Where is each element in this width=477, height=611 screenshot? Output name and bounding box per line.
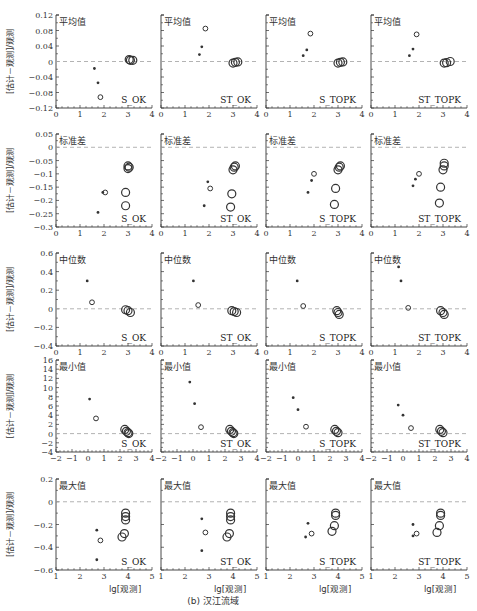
y-axis-label: [估计－观测]/观测 [5,148,15,213]
panel-title: 中位数 [59,254,86,265]
y-axis-label: [估计－观测]/观测 [5,29,15,94]
x-tick-label: 4 [359,454,364,463]
y-tick-label: 0.05 [35,130,53,139]
x-tick-label: 4 [440,572,445,581]
x-tick-label: 3 [335,229,340,238]
x-tick-label: 1 [53,572,58,581]
x-tick-label: 2 [311,348,316,357]
method-label: ST_OK [220,333,251,344]
x-tick-label: 1 [101,454,106,463]
x-tick-label: 1 [416,454,421,463]
x-tick-label: 4 [464,454,469,463]
y-tick-label: 0 [48,498,53,507]
panel-title: 中位数 [164,254,191,265]
x-tick-label: 4 [149,348,154,357]
panel-title: 平均值 [269,16,296,27]
method-label: ST_TOPK [418,557,461,568]
data-point [200,517,203,520]
y-tick-label: 0 [48,143,53,152]
x-axis-label: lg[观测] [109,584,141,594]
x-tick-label: 3 [206,572,211,581]
x-tick-label: 5 [149,572,154,581]
panel-title: 平均值 [374,16,401,27]
x-tick-label: 1 [158,572,163,581]
data-point [307,522,310,525]
data-point [304,424,309,429]
x-tick-label: 1 [182,229,187,238]
data-point [196,303,201,308]
x-tick-label: 1 [206,454,211,463]
data-point [227,203,235,211]
data-point [406,305,411,310]
data-point [200,549,203,552]
y-tick-label: 0.08 [35,27,53,36]
panel-title: 标准差 [164,135,191,146]
figure-canvas: [估计－观测]/观测−0.12−0.08−0.0400.040.080.1201… [0,0,477,611]
data-point [206,180,209,183]
data-point [296,280,299,283]
x-axis-label: lg[观测] [214,584,246,594]
x-tick-label: −1 [381,454,393,463]
y-axis-label: [估计－观测]/观测 [5,492,15,557]
y-tick-label: −0.12 [28,104,53,113]
x-tick-label: 2 [101,229,106,238]
x-tick-label: 4 [359,229,364,238]
method-label: S_TOPK [319,333,356,344]
x-tick-label: 2 [77,572,82,581]
method-label: ST_TOPK [418,95,461,106]
x-tick-label: 3 [440,229,445,238]
y-axis-label: [估计－观测]/观测 [5,374,15,439]
x-tick-label: 2 [206,229,211,238]
data-point [412,534,415,537]
data-point [93,67,96,70]
panel-title: 最大值 [59,480,86,491]
x-tick-label: −1 [276,454,288,463]
x-tick-label: 3 [230,348,235,357]
y-tick-label: −0.05 [28,157,53,166]
data-point [193,402,196,405]
data-point [199,425,204,430]
x-tick-label: 0 [190,454,195,463]
data-point [312,171,317,176]
method-label: S_TOPK [319,214,356,225]
x-tick-label: 2 [311,110,316,119]
x-tick-label: 3 [238,454,243,463]
x-tick-label: 5 [254,572,259,581]
panel-title: 标准差 [59,135,86,146]
data-point [408,54,411,57]
y-tick-label: 14 [43,365,53,374]
x-tick-label: 3 [440,110,445,119]
data-point [400,280,403,283]
data-point [412,184,415,187]
x-tick-label: 1 [368,572,373,581]
x-tick-label: 4 [359,110,364,119]
x-tick-label: 3 [125,348,130,357]
data-point [302,54,305,57]
x-tick-label: 2 [287,572,292,581]
x-tick-label: 2 [222,454,227,463]
y-tick-label: −0.15 [28,183,53,192]
method-label: ST_OK [220,439,251,450]
data-point [192,280,195,283]
data-point [203,204,206,207]
x-tick-label: 0 [368,110,373,119]
y-tick-label: −0.4 [34,543,53,552]
x-tick-label: 2 [101,348,106,357]
x-tick-label: 4 [149,229,154,238]
x-tick-label: 3 [416,572,421,581]
panel-title: 最大值 [164,480,191,491]
method-label: S_OK [121,95,146,106]
data-point [309,531,314,536]
x-tick-label: 0 [263,348,268,357]
x-tick-label: 0 [158,229,163,238]
y-tick-label: 12 [43,374,53,383]
method-label: S_OK [121,439,146,450]
data-point [203,26,208,31]
panel-title: 中位数 [269,254,296,265]
x-tick-label: 0 [263,110,268,119]
x-tick-label: −2 [260,454,272,463]
data-point [435,522,443,530]
x-tick-label: 1 [287,348,292,357]
x-tick-label: −2 [155,454,167,463]
panel-title: 标准差 [374,135,401,146]
